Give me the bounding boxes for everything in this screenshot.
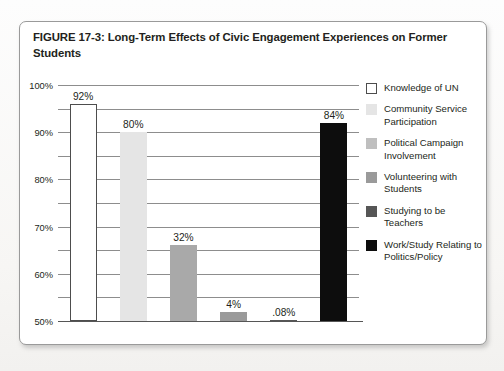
legend-item[interactable]: Volunteering with Students — [366, 171, 484, 196]
legend-item[interactable]: Studying to be Teachers — [366, 205, 484, 230]
bar-value-label: 92% — [73, 91, 93, 102]
chart-bar — [70, 104, 97, 321]
y-axis-tick-label: 100% — [29, 81, 53, 91]
gridline: 40% — [58, 227, 359, 228]
chart-bar — [120, 132, 147, 321]
chart-legend: Knowledge of UNCommunity Service Partici… — [366, 82, 484, 272]
gridline: 90% — [58, 109, 359, 110]
y-axis-tick-label: 80% — [34, 175, 53, 185]
bar-value-label: .08% — [272, 307, 295, 318]
legend-item-label: Community Service Participation — [384, 103, 484, 128]
chart-bar — [320, 123, 347, 321]
gridline: 70% — [58, 156, 359, 157]
y-axis-tick-label: 70% — [34, 223, 53, 233]
figure-panel: FIGURE 17-3: Long-Term Effects of Civic … — [19, 21, 487, 345]
y-axis-tick-label: 50% — [34, 317, 53, 327]
bar-value-label: 84% — [324, 110, 344, 121]
legend-item-label: Political Campaign Involvement — [384, 137, 484, 162]
chart-plot-area: 100%90%80%70%60%50%40%30%20%10%0%92%80%3… — [58, 85, 359, 321]
legend-swatch-icon — [366, 240, 377, 251]
gridline: 80% — [58, 132, 359, 133]
legend-swatch-icon — [366, 104, 377, 115]
gridline: 30% — [58, 250, 359, 251]
legend-item[interactable]: Work/Study Relating to Politics/Policy — [366, 239, 484, 264]
legend-item-label: Work/Study Relating to Politics/Policy — [384, 239, 484, 264]
legend-item-label: Volunteering with Students — [384, 171, 484, 196]
gridline: 10% — [58, 297, 359, 298]
legend-item[interactable]: Knowledge of UN — [366, 82, 484, 94]
bar-value-label: 32% — [173, 232, 193, 243]
legend-swatch-icon — [366, 172, 377, 183]
legend-swatch-icon — [366, 138, 377, 149]
gridline: 20% — [58, 274, 359, 275]
legend-item-label: Knowledge of UN — [384, 82, 459, 94]
chart-bar — [270, 320, 297, 321]
legend-swatch-icon — [366, 206, 377, 217]
legend-item[interactable]: Community Service Participation — [366, 103, 484, 128]
legend-swatch-icon — [366, 83, 377, 94]
legend-item[interactable]: Political Campaign Involvement — [366, 137, 484, 162]
gridline: 100% — [58, 85, 359, 86]
chart-bar — [170, 245, 197, 321]
gridline: 50% — [58, 203, 359, 204]
y-axis-tick-label: 60% — [34, 270, 53, 280]
gridline: 60% — [58, 179, 359, 180]
legend-item-label: Studying to be Teachers — [384, 205, 484, 230]
bar-value-label: 4% — [226, 299, 241, 310]
bar-value-label: 80% — [123, 119, 143, 130]
x-axis-line: 0% — [58, 321, 363, 322]
chart-bar — [220, 312, 247, 321]
y-axis-tick-label: 90% — [34, 128, 53, 138]
